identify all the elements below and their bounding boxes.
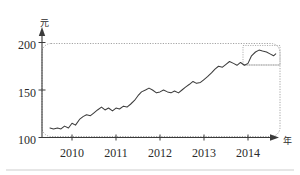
chart-screenshot: 元 年 200 150 100 2010 2011 2012 2013 2014	[0, 0, 300, 175]
x-tick-label-2013-wrap: 2013	[184, 143, 224, 161]
x-axis-unit-wrap: 年	[283, 130, 299, 148]
x-tick-label-2014: 2014	[236, 146, 260, 160]
x-tick-label-2013: 2013	[192, 146, 216, 160]
y-tick-label-200: 200	[18, 38, 36, 52]
y-tick-label-100: 100	[18, 133, 36, 147]
x-axis-arrow	[270, 134, 279, 140]
x-axis-unit-label: 年	[283, 136, 292, 146]
x-tick-label-2011: 2011	[104, 146, 128, 160]
x-tick-label-2010-wrap: 2010	[52, 143, 92, 161]
price-series-line	[50, 50, 276, 129]
y-tick-label-150-wrap: 150	[4, 83, 36, 101]
x-tick-label-2010: 2010	[60, 146, 84, 160]
y-axis-unit-wrap: 元	[32, 12, 56, 30]
x-tick-label-2014-wrap: 2014	[228, 143, 268, 161]
y-tick-label-200-wrap: 200	[4, 35, 36, 53]
y-tick-label-150: 150	[18, 86, 36, 100]
y-axis-unit-label: 元	[40, 18, 49, 28]
y-tick-label-100-wrap: 100	[4, 130, 36, 148]
x-tick-label-2011-wrap: 2011	[96, 143, 136, 161]
x-tick-label-2012: 2012	[148, 146, 172, 160]
x-tick-label-2012-wrap: 2012	[140, 143, 180, 161]
